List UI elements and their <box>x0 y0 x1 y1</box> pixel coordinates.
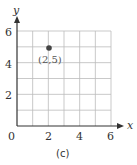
x-tick-2: 2 <box>45 130 52 143</box>
data-point <box>46 45 52 51</box>
x-axis-arrow-icon <box>117 123 124 129</box>
x-axis-label: x <box>127 119 134 132</box>
grid-lines <box>17 31 111 126</box>
axes <box>14 16 124 129</box>
x-tick-4: 4 <box>76 130 83 143</box>
origin-label: 0 <box>8 130 15 143</box>
figure-caption: (c) <box>56 148 69 159</box>
data-point-label: (2,5) <box>38 54 62 65</box>
x-tick-6: 6 <box>107 130 114 143</box>
y-axis-arrow-icon <box>14 16 20 23</box>
y-tick-4: 4 <box>5 58 12 71</box>
y-axis-label: y <box>12 4 20 17</box>
coordinate-plot: x y 0 2 4 6 2 4 6 (2,5) (c) <box>0 0 137 165</box>
y-tick-6: 6 <box>5 26 12 39</box>
y-tick-2: 2 <box>5 89 12 102</box>
